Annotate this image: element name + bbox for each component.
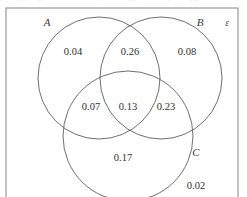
venn-diagram-figure: A B C ε 0.04 0.26 0.08 0.07 0.13 0.23 0.… [0, 0, 247, 197]
region-value-a-only: 0.04 [64, 46, 83, 57]
region-value-a-and-c: 0.07 [82, 101, 100, 112]
universal-set-label: ε [225, 18, 229, 28]
set-label-C: C [192, 146, 200, 158]
region-value-outside: 0.02 [187, 180, 205, 191]
venn-diagram-screenshot: ••••••••••••• A B C ε 0.04 0.26 0.08 0.0… [0, 0, 247, 197]
region-value-a-and-b: 0.26 [121, 46, 139, 57]
region-value-c-only: 0.17 [114, 152, 132, 163]
region-value-b-only: 0.08 [178, 46, 196, 57]
set-label-A: A [43, 16, 51, 28]
set-circle-C [63, 71, 193, 197]
region-value-a-b-and-c: 0.13 [119, 101, 137, 112]
set-label-B: B [197, 16, 204, 28]
region-value-b-and-c: 0.23 [157, 101, 175, 112]
set-circle-B [100, 17, 222, 139]
